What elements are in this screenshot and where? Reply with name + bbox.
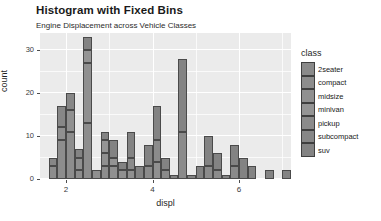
x-tick-mark [153,180,154,183]
histogram-bar [109,140,118,179]
legend-swatch-icon [301,103,315,117]
histogram-bar-segment [161,170,170,179]
histogram-bar-segment [213,153,222,170]
histogram-bar [265,170,274,179]
legend-item-label: midsize [318,92,343,101]
histogram-bar [178,59,187,179]
histogram-bar-segment [109,158,118,167]
legend-item-label: pickup [318,119,340,128]
histogram-bar-segment [49,166,58,179]
legend-item-label: suv [318,146,330,155]
histogram-bar [66,93,75,179]
x-axis-label: displ [40,198,291,208]
histogram-bar-segment [230,166,239,179]
histogram-bar [83,37,92,179]
histogram-bar-segment [101,140,110,153]
histogram-bar-segment [83,123,92,179]
histogram-bar-segment [109,166,118,179]
histogram-bar [49,158,58,179]
legend-swatch-icon [301,143,315,157]
y-tick-label: 0 [30,174,34,183]
histogram-bar-segment [144,166,153,179]
histogram-bar-segment [66,93,75,110]
histogram-bar [204,136,213,179]
x-tick-label: 4 [150,185,154,194]
histogram-bar [75,149,84,179]
gridline-major [40,92,291,93]
y-tick-label: 10 [26,131,34,140]
histogram-bar-segment [101,166,110,179]
y-tick-label: 30 [26,45,34,54]
legend-swatch-icon [301,76,315,90]
histogram-bar-segment [83,63,92,123]
plot-panel [40,33,291,179]
histogram-bar-segment [161,158,170,171]
legend-item-label: 2seater [318,65,343,74]
histogram-bar-segment [178,59,187,132]
histogram-bar-segment [222,175,231,179]
histogram-bar [196,166,205,179]
gridline-minor [196,33,197,179]
histogram-bar-segment [213,170,222,179]
histogram-bar-segment [170,175,179,179]
y-tick-mark [37,50,40,51]
y-tick-label: 20 [26,88,34,97]
legend-item-label: subcompact [318,132,358,141]
histogram-chart: Histogram with Fixed Bins Engine Displac… [0,0,381,221]
histogram-bar [127,132,136,179]
histogram-bar-segment [75,170,84,179]
y-tick-mark [37,179,40,180]
histogram-bar-segment [118,162,127,171]
histogram-bar-segment [153,140,162,161]
histogram-bar-segment [57,106,66,127]
histogram-bar-segment [57,140,66,179]
histogram-bar-segment [265,170,274,179]
page-title: Histogram with Fixed Bins [36,4,183,16]
y-tick-mark [37,93,40,94]
histogram-bar-segment [196,166,205,179]
x-tick-label: 6 [237,185,241,194]
legend-swatch-icon [301,62,315,76]
histogram-bar [135,166,144,179]
histogram-bar [101,132,110,179]
chart-subtitle: Engine Displacement across Vehicle Class… [36,21,196,30]
histogram-bar-segment [49,158,58,167]
histogram-bar [144,145,153,179]
gridline-major [40,135,291,136]
gridline-major [40,49,291,50]
histogram-bar [161,158,170,179]
gridline-minor [40,71,291,72]
legend-swatch-icon [301,116,315,130]
histogram-bar-segment [248,166,257,179]
histogram-bar [248,166,257,179]
histogram-bar [170,175,179,179]
histogram-bar-segment [230,145,239,166]
legend-swatch-icon [301,130,315,144]
histogram-bar-segment [109,140,118,157]
y-axis-label: count [0,70,9,92]
histogram-bar-segment [75,158,84,171]
histogram-bar [239,158,248,179]
histogram-bar-segment [75,149,84,158]
x-tick-label: 2 [64,185,68,194]
histogram-bar-segment [144,145,153,166]
y-tick-mark [37,136,40,137]
legend-swatch-icon [301,89,315,103]
histogram-bar-segment [127,170,136,179]
histogram-bar-segment [83,50,92,63]
histogram-bar-segment [57,127,66,140]
histogram-bar-segment [187,175,196,179]
histogram-bar [187,175,196,179]
histogram-bar-segment [101,153,110,166]
histogram-bar [118,162,127,179]
legend-item-label: compact [318,78,346,87]
histogram-bar [222,175,231,179]
histogram-bar-segment [101,132,110,141]
histogram-bar [230,145,239,179]
histogram-bar-segment [282,170,291,179]
histogram-bar-segment [153,106,162,140]
histogram-bar-segment [66,132,75,179]
histogram-bar-segment [239,158,248,179]
x-tick-mark [66,180,67,183]
histogram-bar-segment [204,166,213,179]
